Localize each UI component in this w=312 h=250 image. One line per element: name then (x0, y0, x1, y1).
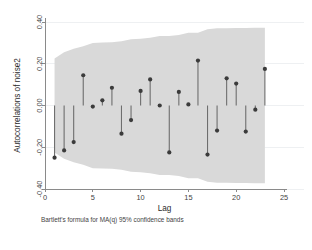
x-tick-label: 20 (232, 193, 240, 202)
acf-point (72, 140, 76, 144)
acf-point (139, 89, 143, 93)
acf-point (234, 81, 238, 85)
chart-note: Bartlett's formula for MA(q) 95% confide… (41, 216, 184, 224)
x-tick-label: 5 (91, 193, 95, 202)
acf-point (215, 128, 219, 132)
acf-point (196, 59, 200, 63)
acf-point (119, 132, 123, 136)
acf-point (81, 73, 85, 77)
y-tick-label: 0.00 (35, 98, 44, 112)
acf-point (186, 102, 190, 106)
x-tick-label: 25 (280, 193, 288, 202)
acf-point (225, 76, 229, 80)
acf-point (52, 156, 56, 160)
acf-point (205, 152, 209, 156)
x-tick-label: 10 (136, 193, 144, 202)
acf-point (253, 108, 257, 112)
acf-point (91, 104, 95, 108)
acf-chart-figure: -0.40-0.200.000.200.40 0510152025 Autoco… (0, 0, 312, 250)
acf-point (263, 67, 267, 71)
acf-point (129, 118, 133, 122)
x-tick-label: 15 (184, 193, 192, 202)
x-axis-title: Lag (158, 204, 172, 213)
acf-point (244, 129, 248, 133)
y-axis-title: Autocorrelations of noise2 (13, 58, 22, 153)
acf-point (177, 90, 181, 94)
acf-point (167, 150, 171, 154)
y-tick-label: 0.40 (35, 15, 44, 29)
acf-point (110, 86, 114, 90)
y-tick-label: -0.20 (35, 139, 44, 156)
x-tick-label: 0 (43, 193, 47, 202)
acf-point (158, 103, 162, 107)
acf-point (148, 77, 152, 81)
acf-point (100, 98, 104, 102)
y-tick-label: 0.20 (35, 57, 44, 71)
acf-point (62, 148, 66, 152)
acf-plot-canvas: -0.40-0.200.000.200.40 0510152025 Autoco… (0, 0, 312, 250)
